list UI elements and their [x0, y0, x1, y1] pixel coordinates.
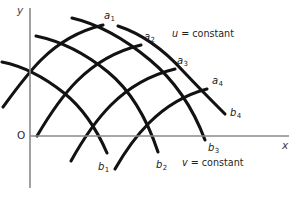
curve-label-b3: b3	[208, 143, 219, 153]
curve-label-b1-sub: 1	[105, 166, 109, 174]
curve-label-b1-text: b	[98, 161, 104, 172]
u-constant-equals-text: = constant	[178, 28, 234, 39]
x-axis-label: x	[282, 140, 288, 151]
curve-label-b2-text: b	[156, 159, 162, 170]
curve-label-b2: b2	[156, 160, 167, 170]
curvilinear-grid-figure: y x O a1 a2 a3 a4 b1 b2 b3 b4 u = consta…	[0, 0, 298, 198]
y-axis-label: y	[17, 5, 23, 16]
curve-label-a2-sub: 2	[150, 36, 154, 44]
curve-label-a1: a1	[104, 11, 115, 21]
curve-label-a1-sub: 1	[110, 15, 114, 23]
curve-label-a4: a4	[212, 76, 223, 86]
curve-label-b1: b1	[98, 162, 109, 172]
figure-canvas	[0, 0, 298, 198]
curve-label-a2: a2	[144, 32, 155, 42]
curve-label-b4-text: b	[230, 107, 236, 118]
u-constant-annotation: u = constant	[172, 29, 234, 39]
origin-label: O	[17, 130, 25, 141]
curve-label-b2-sub: 2	[163, 164, 167, 172]
curve-label-a3: a3	[177, 56, 188, 66]
curve-label-a3-sub: 3	[183, 60, 187, 68]
curve-label-a4-sub: 4	[218, 80, 222, 88]
curve-label-b4: b4	[230, 108, 241, 118]
curve-label-b3-text: b	[208, 142, 214, 153]
curve-label-b4-sub: 4	[237, 112, 241, 120]
curve-label-b3-sub: 3	[215, 147, 219, 155]
v-constant-annotation: v = constant	[182, 158, 244, 168]
v-constant-equals-text: = constant	[188, 157, 244, 168]
